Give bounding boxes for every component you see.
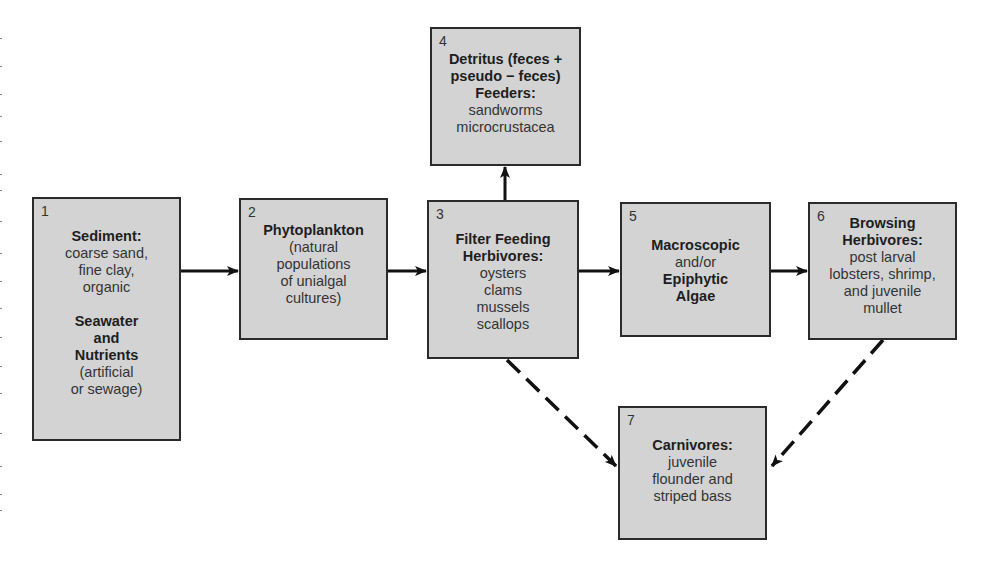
margin-dot [0, 366, 2, 367]
box-number: 3 [436, 206, 444, 223]
box-text: Sediment:coarse sand,fine clay,organicSe… [34, 228, 179, 398]
box-text-line: of unialgal [241, 273, 386, 290]
margin-dot [0, 433, 2, 434]
margin-dot [0, 174, 2, 175]
box-heading-line: Carnivores: [620, 437, 765, 454]
margin-dot [0, 308, 2, 309]
box-text-line: post larval [810, 249, 955, 266]
box-heading-line: Herbivores: [810, 232, 955, 249]
box-heading-line: Epiphytic [622, 271, 769, 288]
margin-dot [0, 141, 2, 142]
box-heading-line: Seawater [34, 313, 179, 330]
margin-dot [0, 253, 2, 254]
box-text-line: or sewage) [34, 381, 179, 398]
box-heading-line: pseudo − feces) [432, 68, 579, 85]
box-text-line: populations [241, 256, 386, 273]
box-heading-line: Browsing [810, 215, 955, 232]
box-filter-feeding-herbivores: 3 Filter FeedingHerbivores:oystersclamsm… [427, 200, 579, 359]
box-text-line: flounder and [620, 471, 765, 488]
box-heading-line: Algae [622, 288, 769, 305]
box-text-line: organic [34, 279, 179, 296]
box-text-line: mussels [429, 299, 577, 316]
box-detritus-feeders: 4 Detritus (feces +pseudo − feces)Feeder… [430, 27, 581, 166]
margin-dot [0, 510, 2, 511]
box-macroscopic-algae: 5 Macroscopicand/orEpiphyticAlgae [620, 202, 771, 337]
box-phytoplankton: 2 Phytoplankton(naturalpopulationsof uni… [239, 198, 388, 340]
arrow-6-to-7 [772, 340, 883, 466]
box-carnivores: 7 Carnivores:juvenileflounder andstriped… [618, 406, 767, 540]
margin-dot [0, 393, 2, 394]
box-text-line: fine clay, [34, 262, 179, 279]
margin-dot [0, 466, 2, 467]
arrow-3-to-7 [507, 360, 616, 466]
box-text: BrowsingHerbivores:post larvallobsters, … [810, 215, 955, 317]
margin-dot [0, 38, 2, 39]
margin-dot [0, 116, 2, 117]
margin-dot [0, 281, 2, 282]
box-text-line: coarse sand, [34, 245, 179, 262]
box-number: 7 [627, 412, 635, 429]
box-sediment-seawater: 1 Sediment:coarse sand,fine clay,organic… [32, 197, 181, 441]
box-text-line: cultures) [241, 290, 386, 307]
margin-dot [0, 190, 2, 191]
box-text-line: (artificial [34, 364, 179, 381]
box-text-line: (natural [241, 239, 386, 256]
box-text: Filter FeedingHerbivores:oystersclamsmus… [429, 231, 577, 333]
margin-dot [0, 221, 2, 222]
box-heading-line: Detritus (feces + [432, 51, 579, 68]
box-number: 1 [41, 203, 49, 220]
food-chain-diagram: 1 Sediment:coarse sand,fine clay,organic… [0, 0, 994, 564]
box-heading-line: Macroscopic [622, 237, 769, 254]
box-number: 5 [629, 208, 637, 225]
box-number: 2 [248, 204, 256, 221]
margin-dot [0, 494, 2, 495]
box-heading-line: Phytoplankton [241, 222, 386, 239]
box-text: Carnivores:juvenileflounder andstriped b… [620, 437, 765, 505]
box-text-line: microcrustacea [432, 119, 579, 136]
box-heading-line: Nutrients [34, 347, 179, 364]
margin-dot [0, 337, 2, 338]
box-text-line: oysters [429, 265, 577, 282]
box-heading-line: and [34, 330, 179, 347]
box-heading-line: Sediment: [34, 228, 179, 245]
box-browsing-herbivores: 6 BrowsingHerbivores:post larvallobsters… [808, 202, 957, 340]
box-text-line: lobsters, shrimp, [810, 266, 955, 283]
box-text: Phytoplankton(naturalpopulationsof unial… [241, 222, 386, 307]
box-text-line: clams [429, 282, 577, 299]
box-text-line: scallops [429, 316, 577, 333]
box-heading-line: Herbivores: [429, 248, 577, 265]
box-text-line: and juvenile [810, 283, 955, 300]
box-text-line: sandworms [432, 102, 579, 119]
box-text-line: and/or [622, 254, 769, 271]
box-text: Macroscopicand/orEpiphyticAlgae [622, 237, 769, 305]
box-text: Detritus (feces +pseudo − feces)Feeders:… [432, 51, 579, 136]
box-text-line: striped bass [620, 488, 765, 505]
box-heading-line: Filter Feeding [429, 231, 577, 248]
line-gap [34, 296, 179, 313]
left-margin-dots [0, 38, 2, 511]
box-text-line: juvenile [620, 454, 765, 471]
box-heading-line: Feeders: [432, 85, 579, 102]
box-text-line: mullet [810, 300, 955, 317]
margin-dot [0, 66, 2, 67]
margin-dot [0, 94, 2, 95]
box-number: 4 [439, 33, 447, 50]
